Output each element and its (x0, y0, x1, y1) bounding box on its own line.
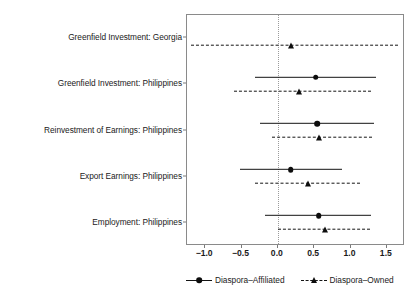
x-axis-tick-label: −0.5 (232, 249, 249, 258)
x-axis-tick-label: 1.0 (344, 249, 356, 258)
point-estimate-marker (313, 75, 319, 81)
x-axis-tick-label: 0.5 (307, 249, 319, 258)
legend-key-marker (196, 277, 202, 283)
point-estimate-marker (305, 181, 311, 187)
y-axis-label: Export Earnings: Philippines (80, 172, 182, 180)
point-estimate-marker (316, 213, 322, 219)
confidence-interval (234, 86, 371, 97)
plot-inner (187, 15, 403, 244)
x-axis: −1.0−0.50.00.51.01.5 (186, 245, 404, 265)
interval-line (234, 90, 371, 91)
chart-legend: Diaspora–AffiliatedDiaspora–Owned (186, 272, 414, 288)
legend-entry[interactable]: Diaspora–Owned (301, 276, 394, 285)
confidence-interval (278, 224, 370, 235)
y-axis-label: Employment: Philippines (92, 218, 182, 226)
x-axis-tick-label: −1.0 (196, 249, 213, 258)
circle-marker-icon (186, 276, 212, 285)
point-estimate-marker (288, 167, 294, 173)
forest-plot-figure: Greenfield Investment: GeorgiaGreenfield… (0, 0, 420, 299)
confidence-interval (265, 210, 371, 221)
interval-line (191, 44, 398, 45)
point-estimate-marker (322, 227, 328, 233)
confidence-interval (255, 72, 376, 83)
legend-entry[interactable]: Diaspora–Affiliated (186, 276, 285, 285)
legend-label: Diaspora–Affiliated (215, 276, 285, 284)
confidence-interval (272, 132, 372, 143)
x-axis-tick-label: 0.0 (271, 249, 283, 258)
y-axis-label: Greenfield Investment: Georgia (68, 33, 182, 41)
point-estimate-marker (316, 134, 322, 140)
y-axis-label: Greenfield Investment: Philippines (58, 79, 182, 87)
point-estimate-marker (314, 121, 320, 127)
triangle-marker-icon (301, 276, 327, 285)
y-axis-category-labels: Greenfield Investment: GeorgiaGreenfield… (0, 0, 182, 299)
x-axis-tick-label: 1.5 (380, 249, 392, 258)
point-estimate-marker (296, 88, 302, 94)
confidence-interval (260, 118, 373, 129)
legend-label: Diaspora–Owned (330, 276, 394, 284)
legend-key-marker (311, 277, 317, 283)
confidence-interval (240, 164, 342, 175)
point-estimate-marker (288, 42, 294, 48)
confidence-interval (191, 40, 398, 51)
y-axis-label: Reinvestment of Earnings: Philippines (44, 125, 182, 133)
confidence-interval (255, 178, 360, 189)
plot-area (186, 14, 404, 245)
